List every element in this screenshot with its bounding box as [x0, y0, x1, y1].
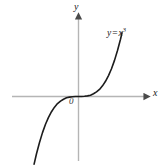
cubic-function-figure: y x 0 y=x3 [0, 0, 164, 165]
curve-label-exponent: 3 [123, 26, 126, 33]
x-axis-label: x [153, 88, 157, 98]
curve-label-equals: = [111, 28, 118, 38]
y-axis-label: y [74, 2, 78, 12]
plot-canvas [0, 0, 164, 165]
axes-group [12, 19, 144, 161]
curve-equation-label: y=x3 [107, 29, 126, 39]
origin-label: 0 [69, 97, 74, 106]
